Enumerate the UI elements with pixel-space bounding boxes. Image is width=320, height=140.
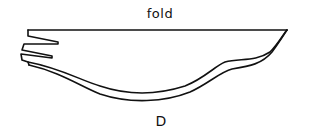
- left-notches: [21, 30, 58, 65]
- outer-curve: [28, 30, 287, 93]
- piece-label: D: [150, 113, 172, 129]
- hem-curve: [29, 30, 287, 101]
